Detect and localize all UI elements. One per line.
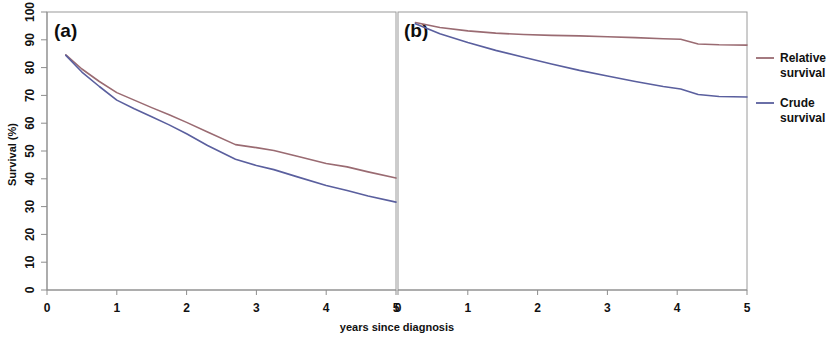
- x-axis-title: years since diagnosis: [340, 321, 454, 333]
- panel-b-series: [415, 23, 747, 98]
- panel-a-series: [66, 55, 396, 202]
- x-tick-label: 4: [674, 301, 681, 315]
- y-axis-title: Survival (%): [6, 123, 18, 186]
- y-tick-label: 60: [23, 116, 37, 130]
- legend-label-crude-survival-line1: Crude: [780, 96, 815, 110]
- y-tick-label: 70: [23, 88, 37, 102]
- y-tick-label: 30: [23, 200, 37, 214]
- legend-label-relative-survival-line1: Relative: [780, 51, 826, 65]
- x-tick-label: 3: [604, 301, 611, 315]
- x-tick-label: 1: [113, 301, 120, 315]
- series-line-relative-survival: [66, 55, 396, 178]
- x-tick-label: 3: [253, 301, 260, 315]
- legend: RelativesurvivalCrudesurvival: [756, 51, 826, 125]
- y-tick-label: 10: [23, 255, 37, 269]
- x-tick-label: 0: [44, 301, 51, 315]
- y-tick-label: 80: [23, 61, 37, 75]
- panel-a-x-ticks: 012345: [44, 290, 400, 315]
- series-line-crude-survival: [66, 55, 396, 202]
- panel-a-frame: [47, 12, 396, 290]
- legend-label-relative-survival-line2: survival: [780, 66, 825, 80]
- x-tick-label: 2: [534, 301, 541, 315]
- panel-a: (a) 012345 0102030405060708090100: [23, 2, 400, 315]
- y-tick-label: 100: [23, 2, 37, 22]
- panel-a-y-ticks: 0102030405060708090100: [23, 2, 47, 294]
- legend-label-crude-survival-line2: survival: [780, 111, 825, 125]
- panel-b-frame: [398, 12, 747, 290]
- figure-canvas: (a) 012345 0102030405060708090100 (b) 01…: [0, 0, 834, 338]
- x-tick-label: 1: [464, 301, 471, 315]
- y-tick-label: 20: [23, 227, 37, 241]
- panel-b-x-ticks: 012345: [395, 290, 751, 315]
- x-tick-label: 2: [183, 301, 190, 315]
- panel-a-label: (a): [54, 20, 77, 41]
- y-tick-label: 90: [23, 33, 37, 47]
- y-tick-label: 40: [23, 172, 37, 186]
- panel-b: (b) 012345: [395, 12, 751, 315]
- y-tick-label: 50: [23, 144, 37, 158]
- x-tick-label: 5: [744, 301, 751, 315]
- y-tick-label: 0: [23, 286, 37, 293]
- x-tick-label: 4: [323, 301, 330, 315]
- x-tick-label: 0: [395, 301, 402, 315]
- survival-curves-figure: (a) 012345 0102030405060708090100 (b) 01…: [0, 0, 834, 338]
- series-line-crude-survival: [415, 24, 747, 97]
